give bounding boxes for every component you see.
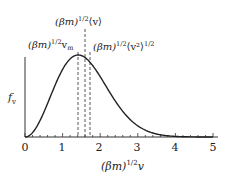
annotation-rms-speed: (βm)1/2⟨v²⟩1/2 xyxy=(93,40,154,52)
x-tick-label: 3 xyxy=(134,141,141,154)
x-tick-label: 5 xyxy=(210,141,217,154)
x-tick-label: 2 xyxy=(96,141,103,154)
x-tick-label: 1 xyxy=(59,141,66,154)
x-tick-label: 0 xyxy=(22,141,29,154)
chart-root: 0 1 2 3 4 5 (βm)1/2v fv (βm)1/2⟨v⟩ (βm)1… xyxy=(0,0,228,179)
x-tick-label: 4 xyxy=(172,141,179,154)
x-axis-label: (βm)1/2v xyxy=(101,159,145,173)
y-axis-label: fv xyxy=(7,91,16,106)
annotation-mean-speed: (βm)1/2⟨v⟩ xyxy=(55,15,102,27)
annotation-most-probable-speed: (βm)1/2vm xyxy=(28,38,73,52)
maxwell-distribution-chart: 0 1 2 3 4 5 (βm)1/2v fv (βm)1/2⟨v⟩ (βm)1… xyxy=(0,0,228,179)
distribution-curve xyxy=(25,55,213,137)
